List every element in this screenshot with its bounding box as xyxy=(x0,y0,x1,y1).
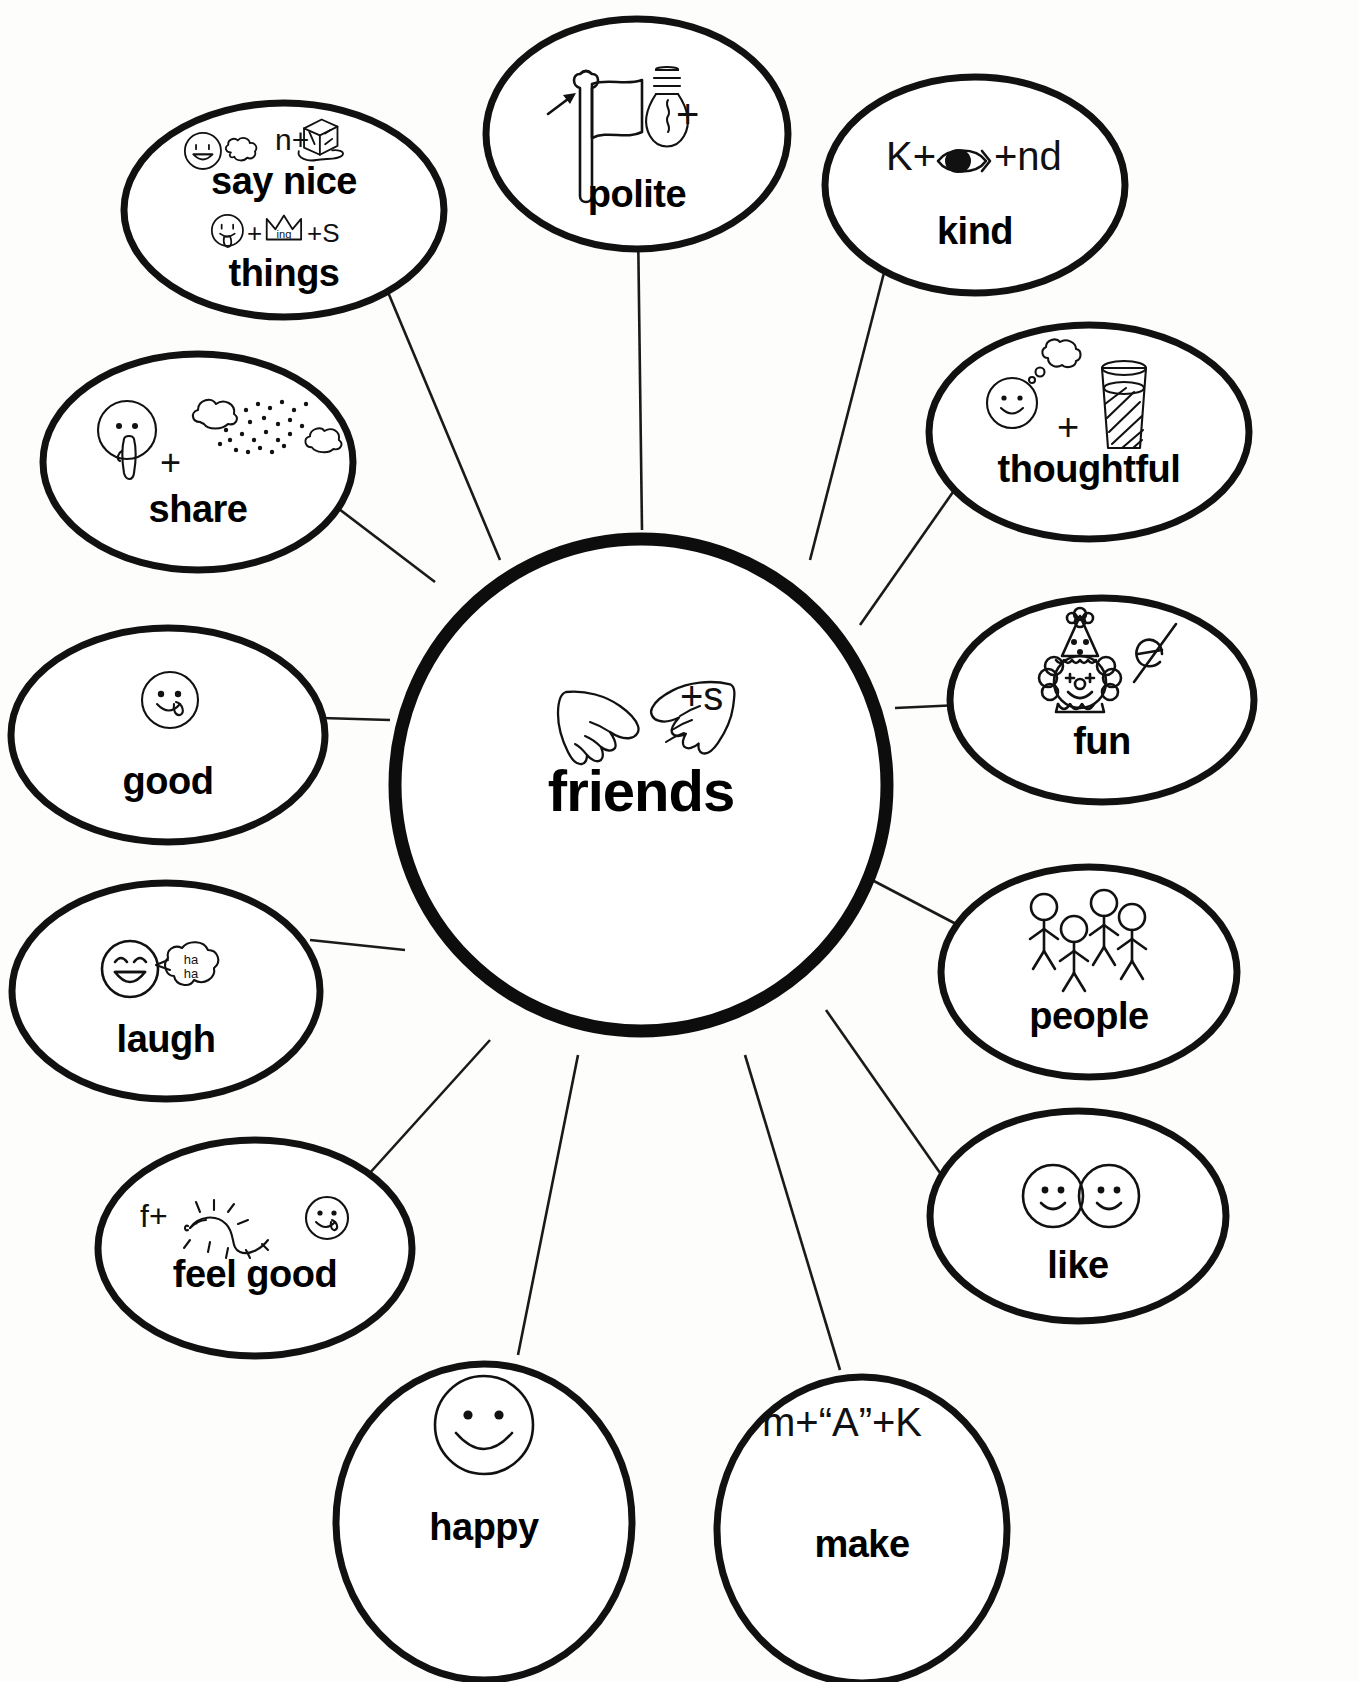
spoke-good xyxy=(322,718,390,720)
svg-text:ha: ha xyxy=(184,952,199,967)
spoke-say-nice-things xyxy=(385,285,500,560)
node-fun[interactable] xyxy=(950,598,1254,802)
kind-rebus-suffix: +nd xyxy=(994,134,1062,179)
node-kind[interactable] xyxy=(825,77,1125,293)
svg-text:ing: ing xyxy=(276,228,291,240)
node-laugh[interactable]: ha ha xyxy=(12,883,320,1099)
word-web-diagram: .oval { fill:#ffffff; stroke:#111111; st… xyxy=(0,0,1359,1682)
spoke-laugh xyxy=(310,940,405,950)
node-people[interactable] xyxy=(941,867,1237,1077)
center-rebus-text: +s xyxy=(680,674,723,718)
node-like[interactable] xyxy=(930,1111,1226,1321)
center-node[interactable]: +s xyxy=(395,539,887,1031)
say-nice-things-rebus-plus-s: +S xyxy=(307,218,340,249)
spoke-feel-good xyxy=(368,1040,490,1175)
node-share[interactable]: + xyxy=(43,354,353,570)
worksheet-page: .oval { fill:#ffffff; stroke:#111111; st… xyxy=(0,0,1359,1682)
node-thoughtful[interactable]: + xyxy=(929,325,1249,539)
spoke-like xyxy=(826,1010,945,1180)
svg-text:ha: ha xyxy=(184,966,199,981)
spoke-kind xyxy=(810,265,886,560)
make-rebus-text: m+“A”+K xyxy=(762,1400,922,1445)
spoke-happy xyxy=(518,1055,578,1355)
spoke-make xyxy=(745,1055,840,1370)
node-happy[interactable] xyxy=(336,1364,632,1680)
say-nice-things-rebus-plus: + xyxy=(247,218,262,249)
spoke-polite xyxy=(638,225,642,530)
feel-good-rebus-f-plus: f+ xyxy=(140,1198,168,1235)
node-good[interactable] xyxy=(11,628,325,842)
kind-rebus-prefix: K+ xyxy=(886,134,936,179)
spoke-thoughtful xyxy=(860,482,960,625)
margin-copyright-note xyxy=(1,1280,15,1670)
node-feel-good[interactable] xyxy=(98,1140,412,1356)
say-nice-things-rebus-n-plus: n+ xyxy=(275,123,309,157)
share-plus: + xyxy=(160,442,181,483)
spoke-people xyxy=(872,880,958,925)
thoughtful-plus: + xyxy=(1057,406,1079,448)
node-polite[interactable]: + xyxy=(486,19,788,249)
